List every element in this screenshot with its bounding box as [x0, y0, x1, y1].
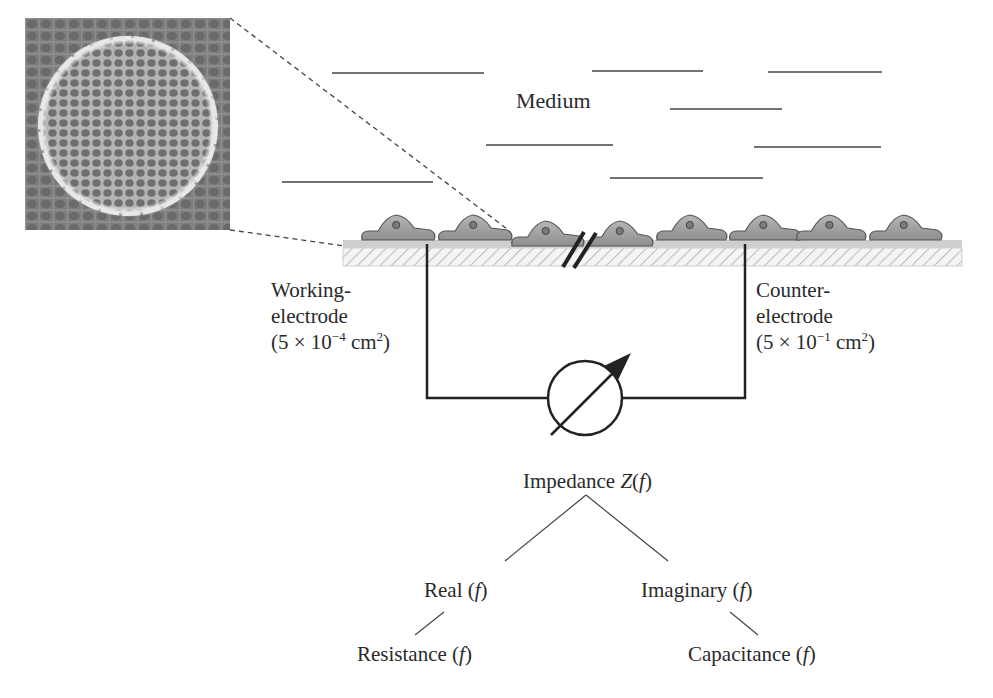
cell-nucleus [616, 227, 623, 234]
cell-nucleus [542, 227, 549, 234]
tree-edge-capacitance [730, 612, 758, 635]
capacitance-label: Capacitance (f) [688, 641, 816, 667]
resistance-label: Resistance (f) [357, 641, 472, 667]
working-electrode-line1: Working- [271, 277, 390, 303]
cell-nucleus [393, 221, 400, 228]
counter-electrode-line1: Counter- [756, 277, 875, 303]
cell-nucleus [826, 221, 833, 228]
counter-electrode-label: Counter- electrode (5 × 10−1 cm2) [756, 277, 875, 355]
wire-working [427, 244, 548, 398]
substrate-hatched [343, 248, 962, 266]
zoom-line-top [230, 18, 507, 229]
working-electrode-line2: electrode [271, 303, 390, 329]
imaginary-part-label: Imaginary (f) [641, 577, 752, 603]
counter-electrode-line2: electrode [756, 303, 875, 329]
working-electrode-label: Working- electrode (5 × 10−4 cm2) [271, 277, 390, 355]
real-part-label: Real (f) [424, 577, 488, 603]
tree-edge-imaginary [586, 495, 668, 561]
tree-edge-resistance [415, 612, 444, 635]
wire-counter [622, 244, 745, 398]
cell-nucleus [760, 221, 767, 228]
cell-nucleus [686, 221, 693, 228]
medium-label: Medium [516, 88, 591, 114]
impedance-root-label: Impedance Z(f) [523, 468, 652, 494]
counter-electrode-area: (5 × 10−1 cm2) [756, 329, 875, 355]
cell-nucleus [470, 221, 477, 228]
cell-nucleus [900, 221, 907, 228]
impedance-meter-icon [548, 353, 631, 435]
tree-edge-real [505, 495, 586, 561]
zoom-line-bottom [230, 230, 345, 246]
working-electrode-area: (5 × 10−4 cm2) [271, 329, 390, 355]
